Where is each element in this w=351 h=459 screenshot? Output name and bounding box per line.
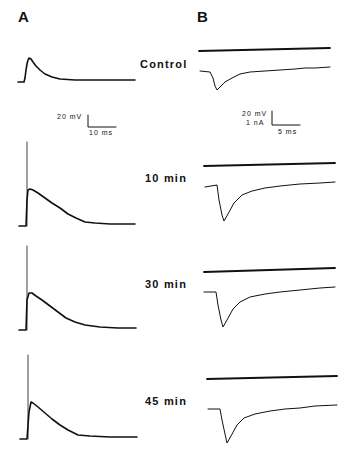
trace-a-10min [19,189,135,226]
trace-b-30min-current [204,287,335,327]
scale-bar-a [88,115,116,127]
trace-b-45min-voltage [207,376,337,379]
trace-b-30min-voltage [204,268,335,272]
trace-a-30min [19,293,136,330]
trace-b-control-current [200,67,330,90]
trace-a-45min [20,402,137,439]
trace-b-control-voltage [199,48,330,51]
trace-b-10min-voltage [204,163,335,166]
trace-b-10min-current [205,182,335,221]
scale-bar-b [272,111,300,125]
trace-a-control [18,58,135,82]
traces-canvas [0,0,351,459]
trace-b-45min-current [208,405,337,443]
